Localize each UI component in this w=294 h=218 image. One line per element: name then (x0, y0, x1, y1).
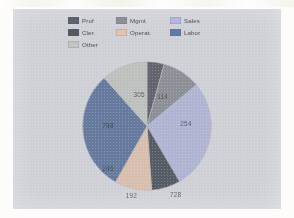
legend-label: Mgmt (130, 17, 146, 24)
legend-swatch-icon (68, 29, 79, 36)
chart-legend: ProfCler.OtherMgmtOperat.SalesLabor (68, 15, 228, 50)
legend-item-mgmt[interactable]: Mgmt (116, 15, 168, 26)
legend-item-cler[interactable]: Cler. (68, 27, 114, 38)
pie-chart: 114254728192246798305 (82, 61, 212, 191)
pie-chart-area: 114254728192246798305 (13, 43, 281, 209)
legend-swatch-icon (116, 29, 127, 36)
legend-swatch-icon (68, 17, 79, 24)
legend-item-labor[interactable]: Labor (170, 27, 222, 38)
legend-swatch-icon (68, 41, 79, 48)
legend-label: Labor (184, 29, 200, 36)
legend-swatch-icon (170, 29, 181, 36)
slice-value-label-prof: 114 (157, 93, 168, 100)
slice-value-label-mgmt: 254 (180, 120, 191, 127)
legend-item-sales[interactable]: Sales (170, 15, 222, 26)
legend-label: Sales (184, 17, 200, 24)
legend-item-operat[interactable]: Operat. (116, 27, 168, 38)
slice-value-label-cler: 192 (126, 191, 137, 198)
legend-item-prof[interactable]: Prof (68, 15, 114, 26)
scan-edge-artifact (0, 0, 294, 7)
legend-swatch-icon (170, 17, 181, 24)
legend-swatch-icon (116, 17, 127, 24)
slice-value-label-labor: 798 (102, 121, 113, 128)
chart-panel: ProfCler.OtherMgmtOperat.SalesLabor 1142… (13, 9, 281, 209)
legend-label: Other (82, 41, 98, 48)
slice-value-label-sales: 728 (170, 190, 181, 197)
legend-label: Operat. (130, 29, 151, 36)
legend-label: Prof (82, 17, 94, 24)
slice-value-label-operat: 246 (102, 164, 113, 171)
legend-item-other[interactable]: Other (68, 39, 114, 50)
slice-value-label-other: 305 (134, 90, 145, 97)
legend-label: Cler. (82, 29, 95, 36)
